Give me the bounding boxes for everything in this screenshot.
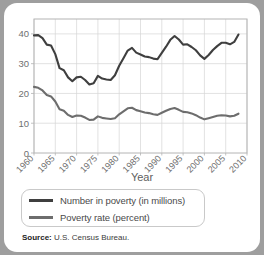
x-tick-label: 1980 xyxy=(99,153,120,174)
chart-ytick-labels: 010203040 xyxy=(18,28,34,158)
x-tick-label: 1965 xyxy=(35,153,56,174)
legend-item-number-in-poverty: Number in poverty (in millions) xyxy=(29,192,204,209)
series-line xyxy=(34,34,238,84)
legend-item-poverty-rate: Poverty rate (percent) xyxy=(29,209,204,226)
legend-label-number-in-poverty: Number in poverty (in millions) xyxy=(60,195,185,206)
legend-swatch-poverty-rate xyxy=(29,216,53,219)
y-tick-label: 10 xyxy=(18,118,29,129)
chart-series-lines xyxy=(34,34,238,119)
x-axis-title: Year xyxy=(131,171,154,183)
x-tick-label: 2005 xyxy=(206,153,227,174)
source-label: Source: xyxy=(22,233,52,242)
chart-legend: Number in poverty (in millions) Poverty … xyxy=(21,189,205,227)
chart-gridlines xyxy=(34,19,247,153)
y-tick-label: 30 xyxy=(18,58,29,69)
x-tick-label: 1975 xyxy=(78,153,99,174)
x-tick-label: 2010 xyxy=(227,153,248,174)
x-tick-label: 1960 xyxy=(14,153,35,174)
poverty-line-chart: 010203040 196019651970197519801985199019… xyxy=(4,7,260,187)
source-note: Source: U.S. Census Bureau. xyxy=(22,233,129,242)
x-tick-label: 2000 xyxy=(185,153,206,174)
figure-card: 010203040 196019651970197519801985199019… xyxy=(4,3,260,252)
source-text: U.S. Census Bureau. xyxy=(54,233,129,242)
series-line xyxy=(34,87,238,120)
x-tick-label: 1995 xyxy=(163,153,184,174)
chart-plot-area: 010203040 196019651970197519801985199019… xyxy=(4,7,260,187)
y-tick-label: 20 xyxy=(18,88,29,99)
x-tick-label: 1970 xyxy=(57,153,78,174)
legend-swatch-number-in-poverty xyxy=(29,199,53,202)
legend-label-poverty-rate: Poverty rate (percent) xyxy=(60,212,150,223)
y-tick-label: 40 xyxy=(18,28,29,39)
